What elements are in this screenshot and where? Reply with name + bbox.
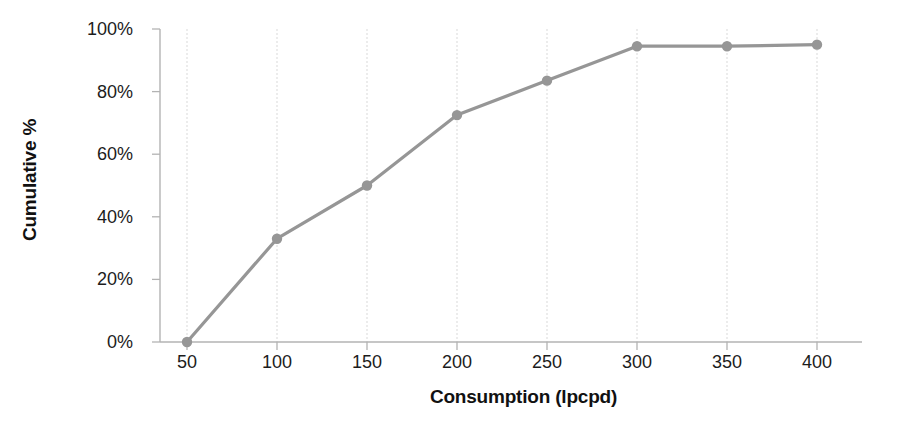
x-axis-tick-label: 300 bbox=[597, 352, 677, 373]
x-axis-tick-label: 200 bbox=[417, 352, 497, 373]
x-axis-tick-label: 400 bbox=[777, 352, 857, 373]
x-axis-tick-label: 50 bbox=[147, 352, 227, 373]
x-axis-tick-label: 150 bbox=[327, 352, 407, 373]
x-axis-tick-label: 250 bbox=[507, 352, 587, 373]
x-axis-tick-label: 350 bbox=[687, 352, 767, 373]
x-axis-tick-label: 100 bbox=[237, 352, 317, 373]
x-axis-title: Consumption (lpcpd) bbox=[187, 386, 860, 408]
x-axis-tick-labels: 50100150200250300350400 bbox=[0, 0, 904, 437]
cumulative-consumption-chart: Cumulative % 0%20%40%60%80%100% 50100150… bbox=[0, 0, 904, 437]
